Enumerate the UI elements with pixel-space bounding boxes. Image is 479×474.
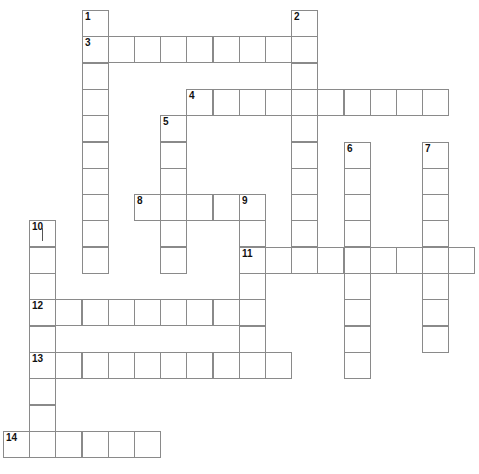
crossword-cell-r7-c8[interactable] — [213, 194, 240, 221]
crossword-cell-r6-c16[interactable] — [422, 168, 449, 195]
crossword-cell-r3-c7[interactable]: 4 — [186, 89, 213, 116]
crossword-cell-r5-c16[interactable]: 7 — [422, 142, 449, 169]
crossword-cell-r1-c8[interactable] — [213, 36, 240, 63]
crossword-cell-r6-c3[interactable] — [82, 168, 109, 195]
crossword-cell-r10-c16[interactable] — [422, 273, 449, 300]
crossword-cell-r15-c1[interactable] — [29, 405, 56, 432]
crossword-cell-r8-c3[interactable] — [82, 220, 109, 247]
crossword-cell-r9-c11[interactable] — [291, 247, 318, 274]
crossword-cell-r0-c3[interactable]: 1 — [82, 10, 109, 37]
crossword-cell-r10-c9[interactable] — [239, 273, 266, 300]
crossword-cell-r5-c6[interactable] — [160, 142, 187, 169]
crossword-cell-r9-c15[interactable] — [396, 247, 423, 274]
crossword-cell-r7-c11[interactable] — [291, 194, 318, 221]
crossword-cell-r6-c11[interactable] — [291, 168, 318, 195]
crossword-cell-r1-c9[interactable] — [239, 36, 266, 63]
crossword-cell-r16-c2[interactable] — [55, 431, 82, 458]
crossword-cell-r13-c9[interactable] — [239, 352, 266, 379]
crossword-cell-r4-c3[interactable] — [82, 115, 109, 142]
crossword-cell-r11-c9[interactable] — [239, 299, 266, 326]
crossword-cell-r3-c11[interactable] — [291, 89, 318, 116]
crossword-cell-r11-c1[interactable]: 12 — [29, 299, 56, 326]
crossword-cell-r9-c14[interactable] — [370, 247, 397, 274]
crossword-cell-r7-c3[interactable] — [82, 194, 109, 221]
crossword-cell-r13-c10[interactable] — [265, 352, 292, 379]
crossword-cell-r11-c16[interactable] — [422, 299, 449, 326]
crossword-cell-r12-c1[interactable] — [29, 326, 56, 353]
crossword-cell-r9-c16[interactable] — [422, 247, 449, 274]
crossword-cell-r8-c16[interactable] — [422, 220, 449, 247]
crossword-cell-r8-c6[interactable] — [160, 220, 187, 247]
crossword-cell-r4-c11[interactable] — [291, 115, 318, 142]
crossword-cell-r0-c11[interactable]: 2 — [291, 10, 318, 37]
crossword-cell-r7-c13[interactable] — [344, 194, 371, 221]
crossword-cell-r7-c16[interactable] — [422, 194, 449, 221]
crossword-cell-r5-c13[interactable]: 6 — [344, 142, 371, 169]
crossword-cell-r3-c12[interactable] — [317, 89, 344, 116]
crossword-cell-r11-c2[interactable] — [55, 299, 82, 326]
crossword-cell-r1-c4[interactable] — [108, 36, 135, 63]
crossword-cell-r9-c12[interactable] — [317, 247, 344, 274]
crossword-cell-r11-c4[interactable] — [108, 299, 135, 326]
crossword-cell-r9-c9[interactable]: 11 — [239, 247, 266, 274]
crossword-cell-r13-c3[interactable] — [82, 352, 109, 379]
crossword-cell-r3-c10[interactable] — [265, 89, 292, 116]
crossword-cell-r2-c3[interactable] — [82, 63, 109, 90]
crossword-cell-r5-c3[interactable] — [82, 142, 109, 169]
crossword-cell-r5-c11[interactable] — [291, 142, 318, 169]
crossword-cell-r13-c1[interactable]: 13 — [29, 352, 56, 379]
crossword-cell-r11-c8[interactable] — [213, 299, 240, 326]
crossword-cell-r9-c6[interactable] — [160, 247, 187, 274]
crossword-cell-r1-c5[interactable] — [134, 36, 161, 63]
crossword-cell-r11-c7[interactable] — [186, 299, 213, 326]
crossword-cell-r16-c0[interactable]: 14 — [3, 431, 30, 458]
crossword-cell-r9-c17[interactable] — [448, 247, 475, 274]
crossword-cell-r12-c16[interactable] — [422, 326, 449, 353]
crossword-cell-r13-c2[interactable] — [55, 352, 82, 379]
crossword-cell-r9-c3[interactable] — [82, 247, 109, 274]
crossword-cell-r13-c6[interactable] — [160, 352, 187, 379]
crossword-cell-r12-c13[interactable] — [344, 326, 371, 353]
crossword-cell-r7-c5[interactable]: 8 — [134, 194, 161, 221]
crossword-cell-r8-c1[interactable]: 10 — [29, 220, 56, 247]
crossword-cell-r11-c13[interactable] — [344, 299, 371, 326]
crossword-cell-r7-c7[interactable] — [186, 194, 213, 221]
crossword-cell-r16-c1[interactable] — [29, 431, 56, 458]
crossword-cell-r8-c13[interactable] — [344, 220, 371, 247]
crossword-cell-r11-c6[interactable] — [160, 299, 187, 326]
crossword-cell-r16-c4[interactable] — [108, 431, 135, 458]
crossword-cell-r3-c14[interactable] — [370, 89, 397, 116]
crossword-cell-r3-c9[interactable] — [239, 89, 266, 116]
crossword-cell-r1-c7[interactable] — [186, 36, 213, 63]
crossword-cell-r8-c9[interactable] — [239, 220, 266, 247]
crossword-cell-r7-c6[interactable] — [160, 194, 187, 221]
crossword-cell-r3-c13[interactable] — [344, 89, 371, 116]
crossword-cell-r1-c10[interactable] — [265, 36, 292, 63]
crossword-cell-r16-c5[interactable] — [134, 431, 161, 458]
crossword-cell-r8-c11[interactable] — [291, 220, 318, 247]
crossword-cell-r4-c6[interactable]: 5 — [160, 115, 187, 142]
crossword-cell-r16-c3[interactable] — [82, 431, 109, 458]
crossword-cell-r13-c8[interactable] — [213, 352, 240, 379]
crossword-cell-r13-c4[interactable] — [108, 352, 135, 379]
crossword-cell-r11-c3[interactable] — [82, 299, 109, 326]
crossword-cell-r3-c3[interactable] — [82, 89, 109, 116]
crossword-cell-r7-c9[interactable]: 9 — [239, 194, 266, 221]
crossword-cell-r1-c6[interactable] — [160, 36, 187, 63]
crossword-cell-r3-c16[interactable] — [422, 89, 449, 116]
crossword-cell-r1-c11[interactable] — [291, 36, 318, 63]
crossword-cell-r6-c13[interactable] — [344, 168, 371, 195]
crossword-cell-r6-c6[interactable] — [160, 168, 187, 195]
crossword-cell-r13-c5[interactable] — [134, 352, 161, 379]
crossword-cell-r3-c8[interactable] — [213, 89, 240, 116]
crossword-cell-r2-c11[interactable] — [291, 63, 318, 90]
crossword-cell-r11-c5[interactable] — [134, 299, 161, 326]
crossword-cell-r3-c15[interactable] — [396, 89, 423, 116]
crossword-cell-r13-c7[interactable] — [186, 352, 213, 379]
crossword-cell-r10-c13[interactable] — [344, 273, 371, 300]
crossword-cell-r13-c13[interactable] — [344, 352, 371, 379]
crossword-cell-r9-c13[interactable] — [344, 247, 371, 274]
crossword-cell-r9-c1[interactable] — [29, 247, 56, 274]
crossword-cell-r1-c3[interactable]: 3 — [82, 36, 109, 63]
crossword-cell-r10-c1[interactable] — [29, 273, 56, 300]
